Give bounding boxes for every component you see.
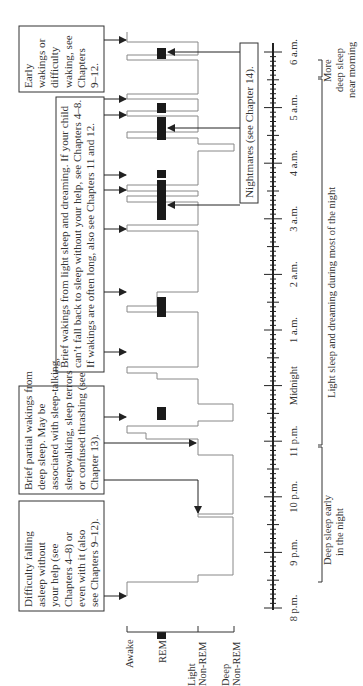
time-label: 6 a.m.: [288, 39, 299, 65]
rem-block: [157, 632, 166, 639]
stage-label-light-1: Light: [186, 663, 197, 686]
note-line: Chapter 13).: [88, 434, 101, 490]
bracket-deep-morning-2: deep sleep: [334, 48, 345, 92]
time-axis: [264, 43, 282, 610]
note-line: see Chapters 9–12).: [88, 518, 101, 607]
time-label: 3 a.m.: [288, 206, 299, 232]
time-label: 11 p.m.: [288, 425, 299, 456]
note-line: 9–12.: [88, 63, 100, 88]
rem-blocks: [157, 48, 166, 639]
note-line: Brief wakings from light sleep and dream…: [58, 105, 70, 368]
time-axis-labels: 8 p.m.9 p.m.10 p.m.11 p.m.Midnight1 a.m.…: [288, 39, 299, 621]
rem-block: [157, 48, 166, 59]
rem-block: [157, 117, 166, 140]
pointer-arrows: [104, 40, 240, 596]
note-line: waking, see: [62, 35, 74, 88]
stage-label-deep-1: Deep: [220, 664, 231, 686]
note-nightmares: Nightmares (see Chapter 14).: [243, 66, 256, 198]
note-line: sleepwalking, sleep terrors: [62, 370, 74, 490]
bracket-deep-early-2: in the night: [334, 508, 345, 556]
time-label: 2 a.m.: [288, 261, 299, 287]
sleep-cycle-diagram: Awake REM Light Non-REM Deep Non-REM 8 p…: [0, 0, 363, 686]
time-label: 5 a.m.: [288, 95, 299, 121]
time-label: 10 p.m.: [288, 481, 299, 513]
note-line: Difficulty falling: [22, 531, 34, 607]
stage-label-deep-2: Non-REM: [231, 641, 242, 686]
time-label: Midnight: [288, 366, 299, 405]
note-line: associated with sleep-talking,: [48, 358, 60, 490]
note-line: difficulty: [48, 46, 60, 88]
time-label: 8 p.m.: [288, 595, 299, 622]
rem-block: [157, 297, 166, 317]
bracket-light-most: Light sleep and dreaming during most of …: [326, 187, 337, 398]
note-line: Chapters: [75, 48, 87, 88]
time-label: 4 a.m.: [288, 150, 299, 176]
note-line: even with it (also: [75, 529, 88, 607]
note-line: If wakings are often long, also see Chap…: [84, 123, 96, 368]
bracket-deep-morning-1: More: [322, 59, 333, 82]
note-line: asleep without: [35, 541, 47, 607]
note-line: can’t fall back to sleep without your he…: [71, 100, 83, 368]
rem-block: [157, 407, 166, 420]
time-label: 9 p.m.: [288, 539, 299, 566]
note-brief-wakings: Brief wakings from light sleep and dream…: [58, 100, 96, 368]
time-label: 1 a.m.: [288, 317, 299, 343]
note-line: Early: [22, 63, 34, 88]
note-line: or confused thrashing (see: [75, 372, 88, 490]
stage-label-light-2: Non-REM: [197, 641, 208, 686]
note-line: Brief partial wakings from: [22, 371, 34, 490]
stage-axis: [127, 626, 234, 632]
hypnogram-trace: [127, 32, 234, 596]
arrow-partial-2: [104, 480, 198, 511]
rem-block: [157, 103, 166, 113]
bracket-deep-morning-3: near morning: [346, 41, 357, 98]
rem-block: [157, 170, 166, 178]
note-line: your help (see: [48, 544, 61, 607]
note-partial-wakings: Brief partial wakings fromdeep sleep. Ma…: [22, 358, 101, 490]
note-line: deep sleep. May be: [35, 404, 47, 490]
bracket-deep-early-1: Deep sleep early: [322, 494, 333, 565]
stage-label-awake: Awake: [124, 639, 135, 668]
note-line: Chapters 4–8) or: [62, 532, 75, 607]
rem-block: [157, 180, 166, 220]
note-early-wakings: Earlywakings ordifficultywaking, seeChap…: [22, 35, 100, 88]
stage-label-rem: REM: [157, 640, 168, 663]
note-falling-asleep: Difficulty fallingasleep withoutyour hel…: [22, 518, 101, 607]
note-line: wakings or: [35, 38, 47, 88]
